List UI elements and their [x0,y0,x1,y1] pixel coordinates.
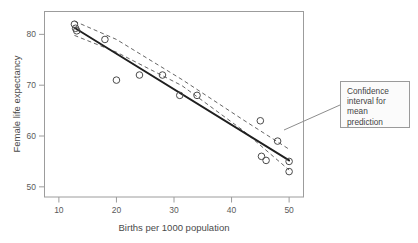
y-tick-label: 70 [27,80,37,90]
confidence-band-lower [74,35,289,170]
data-point [263,157,270,164]
callout-leader-line [284,105,340,130]
y-tick-label: 80 [27,29,37,39]
y-tick-label: 50 [27,182,37,192]
data-point [136,72,143,79]
data-point [286,168,293,175]
y-axis-ticks: 50607080 [27,29,45,191]
x-tick-label: 30 [169,205,179,215]
x-tick-label: 20 [112,205,122,215]
confidence-interval-callout: Confidence interval for mean prediction [340,81,410,128]
data-point [102,36,109,43]
x-axis-ticks: 1020304050 [54,197,294,215]
callout-line-1: Confidence [347,86,404,96]
y-tick-label: 60 [27,131,37,141]
data-points-group [71,21,292,175]
confidence-band-upper [74,21,289,149]
figure-container: 1020304050 50607080 Births per 1000 popu… [0,0,418,243]
data-point [274,138,281,145]
callout-line-3: mean [347,106,404,116]
callout-line-4: prediction [347,117,404,127]
data-point [159,72,166,79]
callout-line-2: interval for [347,96,404,106]
x-tick-label: 50 [284,205,294,215]
data-point [113,77,120,84]
y-axis-label: Female life expectancy [11,55,22,152]
regression-line [74,28,289,161]
data-point [71,21,78,28]
data-point [286,158,293,165]
x-axis-label: Births per 1000 population [119,222,230,233]
x-tick-label: 10 [54,205,64,215]
data-point [257,117,264,124]
x-tick-label: 40 [227,205,237,215]
